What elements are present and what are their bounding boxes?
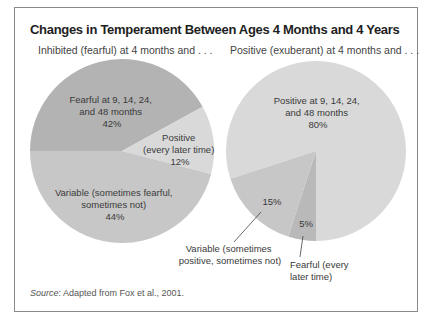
source-note: Source: Adapted from Fox et al., 2001. [30,288,184,298]
left-pie: Fearful at 9, 14, 24, and 48 months 42% … [30,59,217,243]
right-fearful-label: Fearful (every later time) [290,259,351,282]
right-fearful-pct: 5% [299,218,313,229]
source-text: : Adapted from Fox et al., 2001. [59,288,185,298]
right-variable-leader-line [234,212,261,242]
right-pie: Positive at 9, 14, 24, and 48 months 80%… [179,61,406,282]
right-variable-pct: 15% [262,196,282,207]
pie-charts: Fearful at 9, 14, 24, and 48 months 42% … [0,0,434,320]
source-label: Source [30,288,59,298]
right-variable-label: Variable (sometimes positive, sometimes … [179,243,281,266]
